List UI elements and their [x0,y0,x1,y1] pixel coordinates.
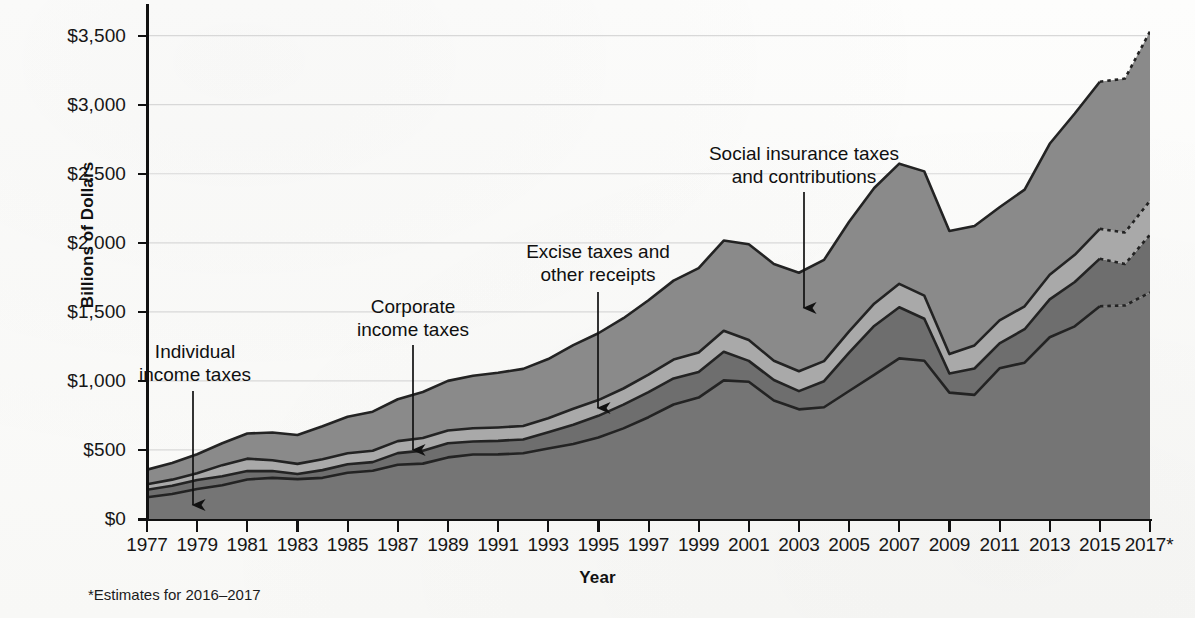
x-tick [898,521,900,532]
x-tick-label: 1989 [427,534,468,556]
x-tick [547,521,549,532]
y-tick-label: $500 [18,439,126,461]
x-tick [447,521,449,532]
annotation-line-1: Social insurance taxes [709,143,899,164]
annotation-individual-income-taxes: Individual income taxes [105,340,285,386]
footnote: *Estimates for 2016–2017 [88,586,261,603]
annotation-line-2: and contributions [684,165,924,188]
annotation-line-1: Corporate [371,296,456,317]
annotation-line-2: income taxes [330,318,496,341]
x-tick-label: 1999 [678,534,719,556]
x-tick-label: 2007 [879,534,920,556]
x-tick [246,521,248,532]
y-axis-title: Billions of Dollars [78,125,98,345]
x-tick-label: 1991 [477,534,518,556]
y-tick [138,104,149,107]
x-tick-label: 1983 [277,534,318,556]
x-tick [296,521,298,532]
x-tick-label: 2013 [1029,534,1070,556]
x-tick [999,521,1001,532]
x-tick [848,521,850,532]
x-tick-label: 2001 [728,534,769,556]
x-tick [1099,521,1101,532]
y-tick-label: $0 [18,508,126,530]
y-tick-label: $2,000 [18,232,126,254]
x-tick-label: 1997 [628,534,669,556]
x-tick-label: 2011 [980,534,1020,556]
x-tick [347,521,349,532]
x-tick-label: 1985 [327,534,368,556]
x-tick-label: 1993 [527,534,568,556]
y-tick [138,242,149,245]
x-tick [196,521,198,532]
x-tick [1049,521,1051,532]
annotation-line-2: income taxes [105,363,285,386]
annotation-excise-taxes-and-other-receipts: Excise taxes and other receipts [500,240,696,286]
x-tick [748,521,750,532]
y-tick-label: $3,500 [18,25,126,47]
y-tick-label: $2,500 [18,163,126,185]
annotation-line-1: Individual [155,341,235,362]
x-tick [597,521,599,532]
x-tick [397,521,399,532]
y-tick [138,35,149,38]
y-tick [138,311,149,314]
annotation-corporate-income-taxes: Corporate income taxes [330,295,496,341]
annotation-social-insurance-taxes-and-contributions: Social insurance taxes and contributions [684,142,924,188]
x-tick [648,521,650,532]
annotation-line-1: Excise taxes and [526,241,670,262]
x-tick [948,521,950,532]
x-tick-label: 1995 [578,534,619,556]
receipts-area-chart: $0$500$1,000$1,500$2,000$2,500$3,000$3,5… [0,0,1195,618]
x-tick [1149,521,1151,532]
y-tick [138,449,149,452]
x-tick-label: 1977 [126,534,167,556]
x-tick-label: 2005 [828,534,869,556]
x-tick [798,521,800,532]
annotation-line-2: other receipts [500,263,696,286]
x-tick-label: 1981 [227,534,268,556]
x-tick-label: 2017* [1125,534,1174,556]
x-tick [698,521,700,532]
y-tick-label: $1,500 [18,301,126,323]
x-tick-label: 1979 [176,534,217,556]
x-tick-label: 1987 [377,534,418,556]
x-tick [146,521,148,532]
x-axis-title: Year [0,568,1195,588]
x-tick-label: 2015 [1079,534,1120,556]
x-tick [497,521,499,532]
y-tick-label: $3,000 [18,94,126,116]
y-tick [138,173,149,176]
y-axis-line [146,4,149,521]
x-tick-label: 2009 [929,534,970,556]
x-tick-label: 2003 [778,534,819,556]
